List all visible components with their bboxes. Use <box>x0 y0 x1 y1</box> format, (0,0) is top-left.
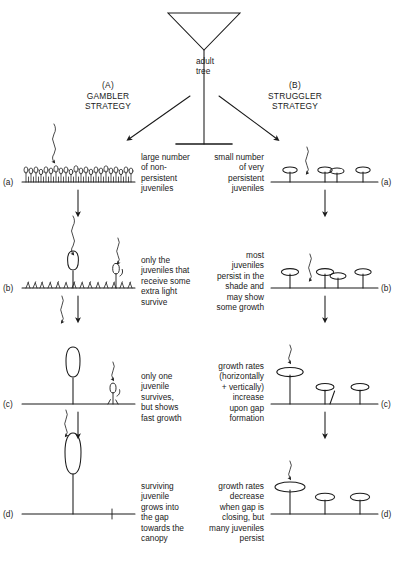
light-ray-a-left <box>53 124 56 162</box>
dense-seedlings-a <box>24 166 133 182</box>
light-ray-c-right <box>289 345 292 363</box>
stage-label-b-left: (b) <box>3 284 13 293</box>
light-ray-bc-left <box>61 296 64 322</box>
adult-tree-label: adult tree <box>196 56 252 77</box>
light-ray-b-left <box>72 216 75 254</box>
heading-gambler: (A) GAMBLER STRATEGY <box>66 80 150 112</box>
light-ray-cd-left <box>65 410 68 436</box>
stage-label-a-right: (a) <box>381 178 391 187</box>
caption-c-struggler: growth rates (horizontally + vertically)… <box>186 361 264 423</box>
light-ray-b-right <box>309 254 312 280</box>
stage-label-c-left: (c) <box>3 400 13 409</box>
stage-label-c-right: (c) <box>381 400 391 409</box>
saplings-c-right <box>277 367 369 404</box>
stage-label-a-left: (a) <box>3 178 13 187</box>
juvenile-plant-b-left <box>68 251 79 288</box>
saplings-a-right <box>283 167 370 182</box>
light-ray-b2-left <box>117 238 120 263</box>
juvenile-small-c-left <box>108 383 120 404</box>
stage-label-b-right: (b) <box>381 284 391 293</box>
heading-struggler: (B) STRUGGLER STRATEGY <box>247 80 343 112</box>
juvenile-plant-c-left <box>66 347 80 404</box>
stage-label-d-right: (d) <box>381 510 391 519</box>
light-ray-a-right <box>306 147 309 173</box>
light-ray-d-right <box>289 461 292 479</box>
light-ray-c-left <box>112 362 115 380</box>
caption-b-struggler: most juveniles persist in the shade and … <box>192 250 264 312</box>
saplings-d-right <box>275 482 370 514</box>
caption-d-struggler: growth rates decrease when gap is closin… <box>182 481 264 543</box>
stage-label-d-left: (d) <box>3 510 13 519</box>
saplings-b-right <box>281 269 371 288</box>
adult-tree-icon <box>168 13 240 144</box>
figure-canvas: adult tree (A) GAMBLER STRATEGY (B) STRU… <box>0 0 402 575</box>
juvenile-plant-d-left <box>65 433 81 514</box>
caption-a-struggler: small number of very persistent juvenile… <box>196 152 264 194</box>
